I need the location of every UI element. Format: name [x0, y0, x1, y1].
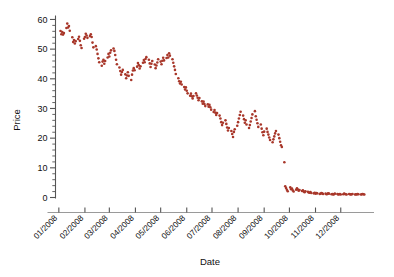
data-point — [127, 71, 130, 74]
data-point — [274, 132, 277, 135]
data-point — [334, 192, 337, 195]
data-point — [100, 64, 103, 67]
y-tick-label: 20 — [37, 133, 47, 143]
data-point — [279, 140, 282, 143]
data-point — [298, 189, 301, 192]
y-tick-label: 30 — [37, 104, 47, 114]
data-point — [120, 73, 123, 76]
data-point — [238, 114, 241, 117]
data-point — [116, 63, 119, 66]
data-point — [257, 126, 260, 129]
data-point — [150, 62, 153, 65]
data-point — [92, 46, 95, 49]
data-point — [238, 117, 241, 120]
data-point — [221, 124, 224, 127]
data-point — [162, 56, 165, 59]
data-point — [122, 69, 125, 72]
data-point — [173, 65, 176, 68]
data-point — [209, 106, 212, 109]
data-point — [66, 22, 69, 25]
data-point — [286, 190, 289, 193]
data-point — [185, 86, 188, 89]
data-point — [242, 114, 245, 117]
data-point — [256, 122, 259, 125]
data-point — [180, 80, 183, 83]
y-tick-label: 40 — [37, 74, 47, 84]
data-point — [202, 100, 205, 103]
data-point — [265, 127, 268, 130]
data-point — [237, 121, 240, 124]
data-point — [204, 105, 207, 108]
data-point — [180, 83, 183, 86]
data-point — [174, 69, 177, 72]
data-point — [219, 117, 222, 120]
y-tick-label: 0 — [42, 193, 47, 203]
data-point — [262, 134, 265, 137]
data-point — [233, 128, 236, 131]
data-point — [230, 130, 233, 133]
data-point — [190, 92, 193, 95]
data-point — [268, 136, 271, 139]
data-point — [71, 36, 74, 39]
data-point — [86, 37, 89, 40]
data-point — [63, 32, 66, 35]
data-point — [216, 112, 219, 115]
data-point — [95, 45, 98, 48]
data-point — [249, 124, 252, 127]
data-point — [227, 129, 230, 132]
data-point — [277, 133, 280, 136]
data-point — [210, 108, 213, 111]
data-point — [186, 92, 189, 95]
y-tick-label: 60 — [37, 15, 47, 25]
data-point — [272, 138, 275, 141]
data-point — [345, 193, 348, 196]
data-point — [110, 49, 113, 52]
data-point — [79, 44, 82, 47]
data-point — [151, 60, 154, 63]
data-point — [191, 97, 194, 100]
data-point — [160, 63, 163, 66]
data-point — [244, 119, 247, 122]
data-point — [125, 77, 128, 80]
data-point — [78, 35, 81, 38]
data-point — [171, 58, 174, 61]
data-point — [90, 33, 93, 36]
data-point — [198, 97, 201, 100]
data-point — [251, 113, 254, 116]
data-point — [260, 123, 263, 126]
data-point — [130, 79, 133, 82]
y-axis-title: Price — [11, 109, 22, 131]
data-point — [255, 118, 258, 121]
data-point — [275, 130, 278, 133]
data-point — [175, 73, 178, 76]
data-point — [118, 66, 121, 69]
data-point — [115, 59, 118, 62]
data-point — [266, 131, 269, 134]
data-point — [233, 131, 236, 134]
data-point — [232, 136, 235, 139]
data-point — [109, 51, 112, 54]
data-point — [224, 119, 227, 122]
data-point — [192, 95, 195, 98]
data-point — [213, 109, 216, 112]
data-point — [222, 121, 225, 124]
data-point — [163, 59, 166, 62]
data-point — [131, 73, 134, 76]
data-point — [218, 114, 221, 117]
data-point — [85, 34, 88, 37]
data-point — [98, 61, 101, 64]
data-point — [127, 75, 130, 78]
data-point — [357, 193, 360, 196]
data-point — [269, 139, 272, 142]
data-point — [231, 133, 234, 136]
data-point — [133, 69, 136, 72]
y-tick-label: 50 — [37, 44, 47, 54]
data-point — [263, 130, 266, 133]
data-point — [95, 48, 98, 51]
data-point — [145, 56, 148, 59]
x-axis-title: Date — [200, 256, 220, 267]
data-point — [104, 60, 107, 63]
data-point — [169, 54, 172, 57]
data-point — [79, 40, 82, 43]
data-point — [304, 190, 307, 193]
